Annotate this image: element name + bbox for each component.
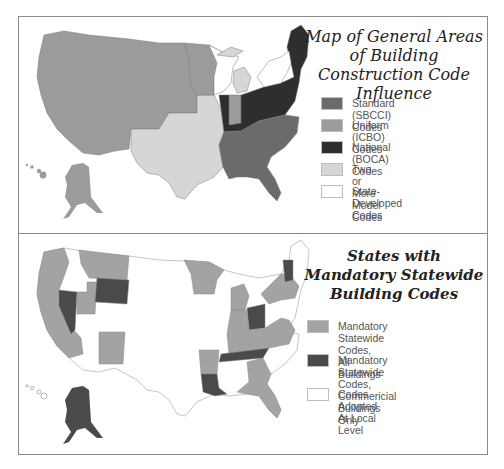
legend-swatch <box>307 388 329 401</box>
legend-swatch <box>321 185 343 198</box>
legend-label: State-Developed Codes <box>352 185 402 221</box>
region-icbo-in <box>229 95 241 125</box>
state-ohio-commercial <box>247 304 265 330</box>
legend-swatch <box>321 163 343 176</box>
code-influence-panel: Map of General Areas of Building Constru… <box>19 17 487 233</box>
us-map-code-influence <box>19 17 319 233</box>
legend-item-local-level: Codes Adopted At Local Level <box>307 388 377 436</box>
region-two-or-more-mi <box>233 67 251 93</box>
alaska-commercial <box>63 386 103 444</box>
mandatory-codes-panel: States with Mandatory Statewide Building… <box>19 234 487 454</box>
state-new-mexico-all <box>99 332 125 364</box>
legend-swatch <box>321 97 343 110</box>
legend-label: Codes Adopted At Local Level <box>338 388 377 436</box>
legend-swatch <box>321 119 343 132</box>
hawaii-icbo <box>26 164 47 179</box>
legend-item-state-developed: State-Developed Codes <box>321 185 402 221</box>
legend-swatch <box>307 320 329 333</box>
top-map-title: Map of General Areas of Building Constru… <box>301 27 487 103</box>
alaska-icbo <box>63 163 103 219</box>
legend-swatch <box>321 141 343 154</box>
bottom-map-title: States with Mandatory Statewide Building… <box>301 247 487 304</box>
legend-swatch <box>307 354 329 367</box>
us-map-mandatory-codes <box>19 234 319 454</box>
state-wyoming-commercial <box>95 278 129 304</box>
hawaii-local <box>26 385 47 399</box>
state-arkansas-all <box>199 350 219 374</box>
state-vermont-commercial <box>283 260 293 282</box>
